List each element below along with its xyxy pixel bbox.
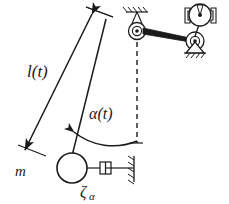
connecting-link	[143, 28, 190, 42]
mass-label: m	[15, 163, 26, 179]
pendulum-schematic-svg: l(t) α(t) m ζ α	[0, 0, 229, 204]
pivot-ground-hatch	[123, 7, 148, 12]
pendulum-rod-top-cap	[86, 7, 113, 17]
main-pivot-center-dot	[135, 29, 139, 33]
pendulum-rod-inner-edge	[72, 19, 106, 156]
length-dimension-bottom-tick	[18, 145, 46, 156]
damping-subscript: α	[89, 190, 95, 202]
length-label: l(t)	[27, 62, 48, 81]
diagram-canvas: l(t) α(t) m ζ α	[0, 0, 229, 204]
damper-ground-wall	[128, 156, 134, 184]
angle-arc	[74, 132, 137, 146]
pendulum-rod-group	[72, 7, 113, 156]
length-dimension-group	[18, 7, 113, 156]
angle-label: α(t)	[89, 105, 113, 123]
damping-label: ζ	[80, 183, 88, 201]
motor-shaft-dot	[198, 13, 202, 17]
pendulum-mass	[57, 153, 87, 183]
rotational-damper	[87, 162, 134, 174]
motor-bracket-right	[211, 8, 216, 23]
damping-label-group: ζ α	[80, 183, 95, 202]
motor-drive	[185, 4, 216, 26]
length-dimension-arrow	[25, 14, 92, 150]
